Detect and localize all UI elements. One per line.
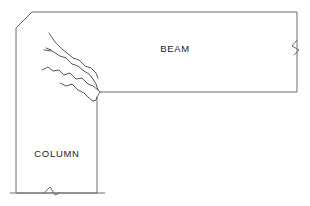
crack-2-branch-upper — [44, 50, 84, 71]
structure-outline-path — [16, 12, 297, 193]
crack-4-lower-left-branch — [42, 67, 88, 84]
beam-label: BEAM — [160, 43, 190, 54]
crack-9-corner-spur — [98, 90, 100, 92]
beam-break-symbol — [292, 40, 299, 55]
crack-10-short-upper-tick — [46, 48, 51, 50]
crack-7-lower-diagonal — [60, 83, 93, 101]
column-break-symbol — [44, 187, 60, 195]
beam-column-joint-diagram: BEAM COLUMN — [0, 0, 310, 206]
crack-network-group — [42, 33, 100, 101]
column-label: COLUMN — [34, 148, 79, 159]
joint-drawing-canvas: BEAM COLUMN — [0, 0, 310, 206]
crack-8-column-face — [93, 97, 97, 101]
crack-1-upper-diagonal — [49, 33, 67, 53]
